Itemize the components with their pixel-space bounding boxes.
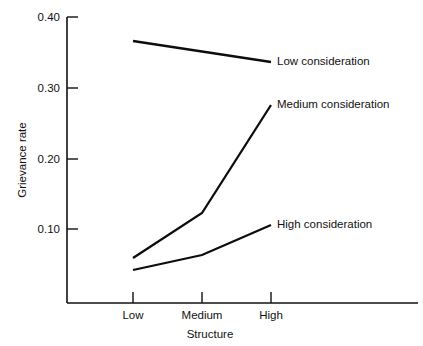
- chart-canvas: 0.40 0.30 0.20 0.10 Low Medium High Stru…: [0, 0, 423, 346]
- series-label-high-consideration: High consideration: [277, 218, 372, 230]
- grievance-rate-line-chart: 0.40 0.30 0.20 0.10 Low Medium High Stru…: [0, 0, 423, 346]
- x-axis-title: Structure: [187, 328, 234, 340]
- y-tick-label-020: 0.20: [38, 153, 60, 165]
- x-tick-label-low: Low: [122, 309, 144, 321]
- series-label-low-consideration: Low consideration: [277, 55, 370, 67]
- y-tick-label-030: 0.30: [38, 82, 60, 94]
- series-line-low-consideration: [133, 41, 271, 62]
- x-tick-label-high: High: [259, 309, 283, 321]
- y-tick-label-040: 0.40: [38, 11, 60, 23]
- y-axis-title: Grievance rate: [16, 122, 28, 197]
- series-label-medium-consideration: Medium consideration: [277, 98, 390, 110]
- y-tick-label-010: 0.10: [38, 223, 60, 235]
- x-tick-label-medium: Medium: [182, 309, 223, 321]
- series-line-high-consideration: [133, 225, 271, 270]
